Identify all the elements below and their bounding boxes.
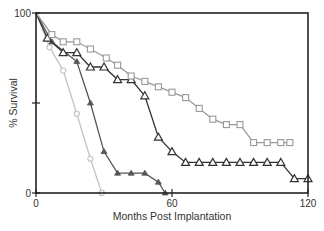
- data-point-triangle-filled: [155, 179, 161, 184]
- data-point-square: [49, 32, 55, 38]
- data-point-square: [103, 55, 109, 61]
- series-squares-line: [36, 13, 290, 143]
- data-point-circle: [88, 156, 93, 161]
- x-axis-title: Months Post Implantation: [113, 210, 232, 222]
- data-point-square: [278, 140, 284, 146]
- data-point-triangle-filled: [101, 149, 107, 154]
- data-point-square: [128, 73, 134, 79]
- data-point-square: [115, 62, 121, 68]
- data-point-square: [287, 140, 293, 146]
- chart-marks: [36, 13, 312, 196]
- data-point-square: [87, 46, 93, 52]
- x-tick-label: 0: [33, 198, 39, 209]
- data-point-circle: [61, 68, 66, 73]
- survival-chart: 0601200100 Months Post Implantation % Su…: [0, 0, 324, 231]
- data-point-square: [142, 78, 148, 84]
- data-point-square: [223, 122, 229, 128]
- y-axis-title: % Survival: [7, 78, 19, 128]
- y-tick-label: 100: [14, 8, 31, 19]
- data-point-square: [237, 122, 243, 128]
- chart-ticks: 0601200100: [14, 8, 316, 210]
- data-point-square: [210, 116, 216, 122]
- data-point-triangle-open: [154, 133, 162, 140]
- data-point-square: [155, 84, 161, 90]
- data-point-circle: [47, 45, 52, 50]
- series-filled-triangles-line: [36, 13, 165, 193]
- series-filled-triangles: [36, 13, 168, 195]
- data-point-circle: [74, 111, 79, 116]
- y-tick-label: 0: [25, 188, 31, 199]
- data-point-square: [169, 89, 175, 95]
- data-point-square: [196, 105, 202, 111]
- x-tick-label: 60: [166, 198, 178, 209]
- data-point-square: [264, 140, 270, 146]
- data-point-square: [74, 39, 80, 45]
- data-point-square: [251, 140, 257, 146]
- data-point-square: [183, 95, 189, 101]
- data-point-triangle-filled: [87, 100, 93, 105]
- data-point-square: [60, 39, 66, 45]
- series-squares: [36, 13, 293, 146]
- x-tick-label: 120: [300, 198, 317, 209]
